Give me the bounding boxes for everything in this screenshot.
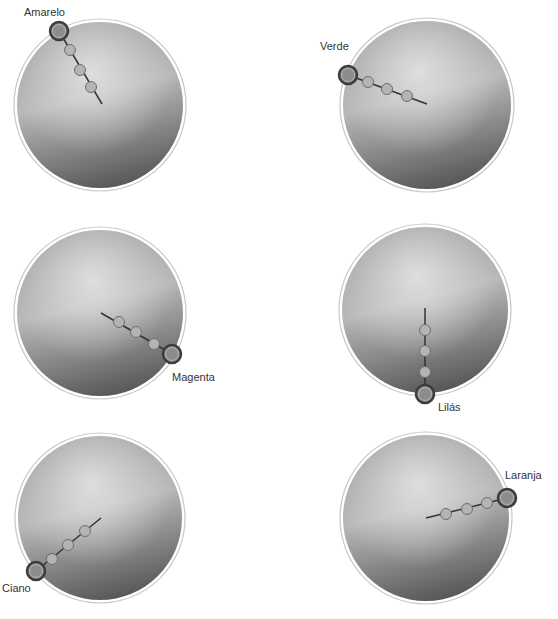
handle-node[interactable]: [462, 504, 473, 515]
dial-label-laranja: Laranja: [505, 469, 542, 481]
handle-node[interactable]: [482, 498, 493, 509]
handle-node[interactable]: [441, 509, 452, 520]
dial-disk-icon: [0, 0, 558, 619]
